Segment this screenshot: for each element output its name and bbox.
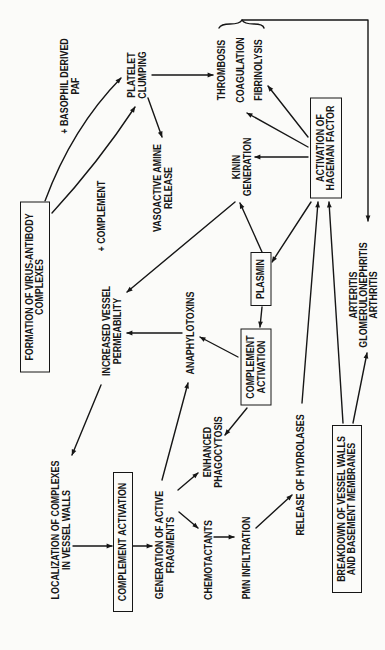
arrow-kinin-to-permeability	[127, 202, 235, 292]
node-complement-activation-mid-box: COMPLEMENT ACTIVATION	[240, 328, 271, 405]
node-label-line: COMPLEMENT	[245, 333, 256, 400]
node-complement-plus-label: + COMPLEMENT	[97, 176, 108, 256]
node-plasmin-box: PLASMIN	[250, 252, 271, 306]
node-label-line: RELEASE	[163, 144, 174, 232]
arrow-hageman-to-coagulation	[247, 113, 308, 147]
node-label-line: + COMPLEMENT	[97, 181, 108, 252]
arrow-permeability-to-localization	[72, 385, 101, 455]
arrow-breakdown-to-diseases	[353, 353, 367, 423]
node-breakdown-box: BREAKDOWN OF VESSEL WALLS AND BASEMENT M…	[332, 425, 362, 593]
brace-outcomes	[219, 20, 264, 28]
node-chemotactants-label: CHEMOTACTANTS	[204, 515, 215, 605]
node-pmn-label: PMN INFILTRATION	[242, 512, 253, 605]
arrow-platelet-to-vasoactive	[148, 98, 162, 137]
arrow-breakdown-to-hageman	[329, 202, 343, 423]
node-label-fibrinolysis: FIBRINOLYSIS	[250, 37, 269, 103]
node-basophil-label: + BASOPHIL DERIVED PAF	[60, 32, 81, 139]
arrow-plasmin-to-complement-mid	[260, 307, 262, 327]
node-localization-label: LOCALIZATION OF COMPLEXES IN VESSEL WALL…	[51, 452, 72, 608]
node-hageman-box: ACTIVATION OF HAGEMAN FACTOR	[310, 97, 342, 198]
arrow-hydrolases-to-hageman	[302, 202, 318, 403]
node-vasoactive-label: VASOACTIVE AMINE RELEASE	[153, 139, 174, 238]
arrow-generation-to-chemotactants	[179, 512, 198, 528]
node-label-line: GENERATION	[242, 138, 253, 197]
arrow-complement-mid-to-anaphylotoxins	[200, 337, 238, 357]
node-label-line: CLUMPING	[137, 51, 148, 98]
node-anaphylotoxins-label: ANAPHYLOTOXINS	[186, 286, 197, 379]
node-platelet-label: PLATELET CLUMPING	[127, 48, 148, 101]
node-label-line: PAF	[70, 38, 81, 134]
node-label-line: PERMEABILITY	[112, 286, 123, 376]
arrow-formation-to-platelet-basophil	[45, 78, 121, 201]
node-label-thrombosis: THROMBOSIS	[213, 37, 232, 103]
node-kinin-label: KININ GENERATION	[232, 134, 253, 200]
arrow-hageman-to-plasmin	[272, 202, 311, 262]
node-label-line: PLASMIN	[255, 256, 266, 302]
node-label-line: ANAPHYLOTOXINS	[186, 292, 197, 375]
node-label-line: PMN INFILTRATION	[242, 517, 253, 600]
node-enhanced-phagocytosis-label: ENHANCED PHAGOCYTOSIS	[203, 412, 224, 492]
node-outcomes-top-label: THROMBOSIS COAGULATION FIBRINOLYSIS	[213, 33, 269, 107]
node-label-arthritis: ARTHRITIS	[369, 242, 379, 347]
diagram-canvas: FORMATION OF VIRUS-ANTIBODY COMPLEXES AC…	[0, 0, 385, 650]
node-label-coagulation: COAGULATION	[231, 37, 250, 103]
arrow-hageman-to-fibrinolysis	[268, 86, 308, 137]
node-increased-permeability-label: INCREASED VESSEL PERMEABILITY	[102, 280, 123, 381]
node-label-line: PHAGOCYTOSIS	[213, 416, 224, 488]
node-label-line: IN VESSEL WALLS	[61, 461, 72, 600]
node-complement-activation-low-box: COMPLEMENT ACTIVATION	[113, 472, 133, 612]
node-label-line: AND BASEMENT MEMBRANES	[347, 435, 358, 583]
node-hydrolases-label: RELEASE OF HYDROLASES	[296, 407, 307, 543]
arrow-pmn-to-hydrolases	[256, 495, 292, 528]
node-label-line: ACTIVATION	[256, 333, 267, 400]
node-label-line: FRAGMENTS	[165, 491, 176, 599]
node-generation-label: GENERATION OF ACTIVE FRAGMENTS	[155, 484, 176, 606]
arrow-plasmin-to-kinin	[240, 203, 262, 252]
node-label-line: COMPLEMENT ACTIVATION	[118, 481, 129, 604]
arrow-generation-to-anaphylotoxins	[162, 383, 188, 480]
node-formation-box: FORMATION OF VIRUS-ANTIBODY COMPLEXES	[20, 201, 50, 372]
arrow-complement-mid-to-enhanced	[225, 408, 247, 435]
node-label-line: RELEASE OF HYDROLASES	[296, 414, 307, 535]
node-diseases-label: ARTERITIS GLOMERULONEPHRITIS ARTHRITIS	[349, 236, 378, 354]
node-label-line: CHEMOTACTANTS	[204, 520, 215, 600]
node-label-line: COMPLEXES	[35, 211, 46, 361]
node-label-line: HAGEMAN FACTOR	[326, 103, 337, 191]
arrow-generation-to-enhanced	[178, 473, 198, 490]
